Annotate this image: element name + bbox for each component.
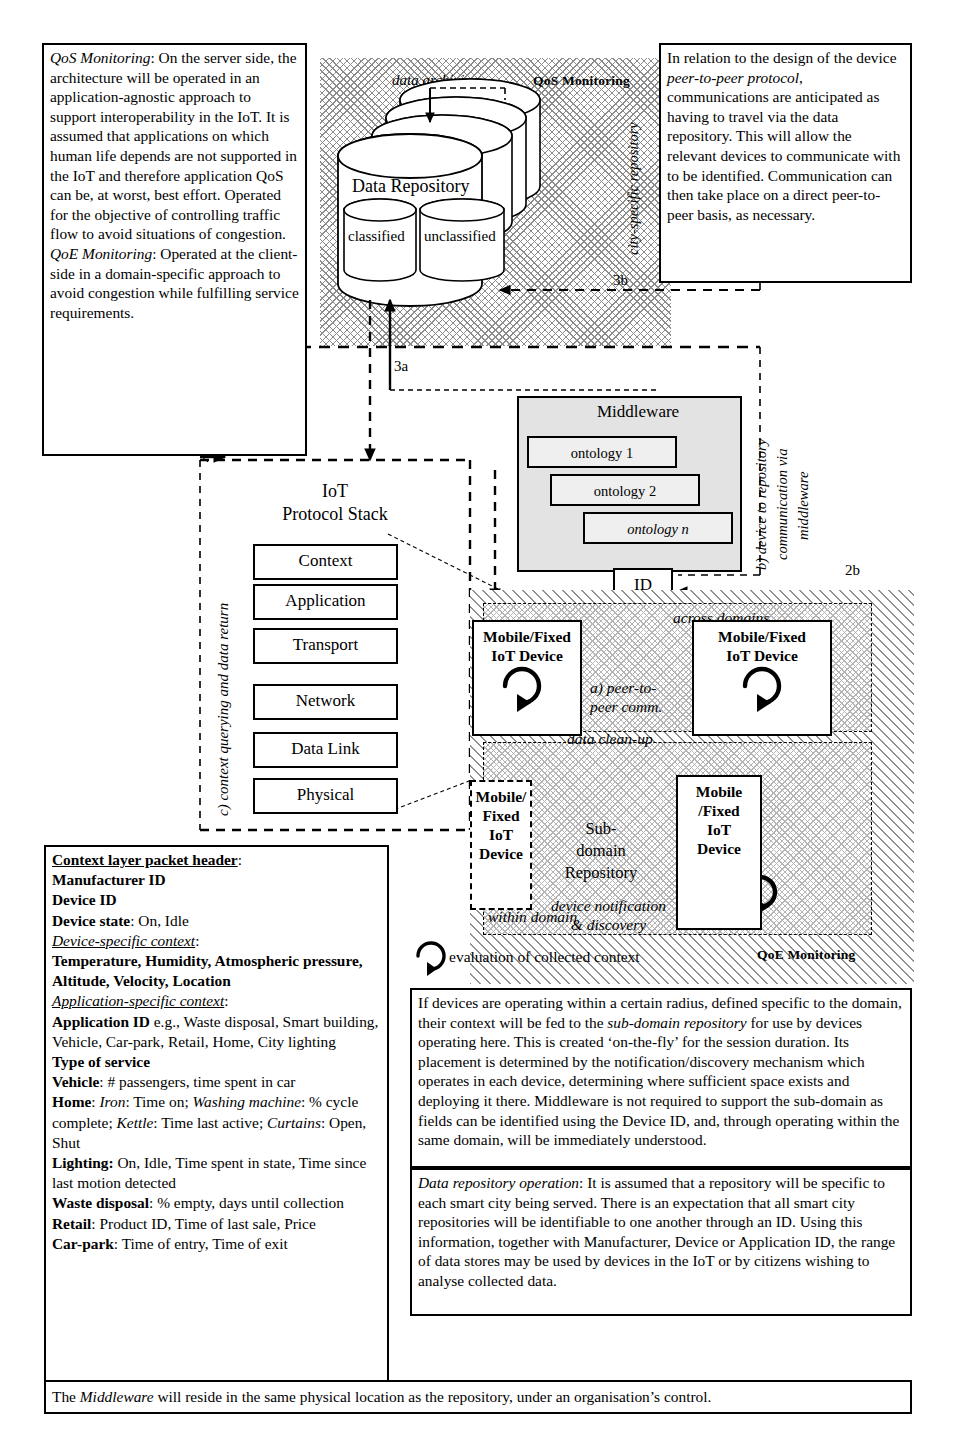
- device-state-label: Device state: [52, 912, 130, 929]
- stack-layer-physical[interactable]: Physical: [253, 778, 398, 814]
- peer-to-peer-comm-label: a) peer-to- peer comm.: [590, 678, 662, 716]
- device-bl-line2: Fixed: [472, 806, 530, 825]
- home-label: Home: [52, 1093, 91, 1110]
- packet-header-box: Context layer packet header: Manufacture…: [44, 845, 389, 1385]
- application-id-label: Application ID: [52, 1013, 150, 1030]
- retail-value: : Product ID, Time of last sale, Price: [91, 1215, 315, 1232]
- device-bottom-right: Mobile /Fixed IoT Device: [676, 775, 762, 930]
- stack-layer-application[interactable]: Application: [253, 584, 398, 620]
- packet-header-title: Context layer packet header: [52, 851, 238, 868]
- home-kettle-value: : Time last active;: [153, 1114, 267, 1131]
- footer-part2: will reside in the same physical locatio…: [154, 1388, 712, 1405]
- p2p-line1: a) peer-to-: [590, 678, 662, 697]
- device-bottom-left: Mobile/ Fixed IoT Device: [470, 780, 532, 910]
- device-specific-fields: Temperature, Humidity, Atmospheric press…: [52, 952, 363, 989]
- stack-layer-context[interactable]: Context: [253, 544, 398, 580]
- home-curtains-label: Curtains: [267, 1114, 321, 1131]
- context-querying-label: c) context querying and data return: [215, 603, 232, 816]
- stack-layer-physical-label: Physical: [297, 785, 355, 804]
- app-specific-context-title: Application-specific context: [52, 992, 224, 1009]
- footer-part1: The: [52, 1388, 80, 1405]
- retail-label: Retail: [52, 1215, 91, 1232]
- device-id-label: Device ID: [52, 891, 117, 908]
- stack-layer-transport[interactable]: Transport: [253, 628, 398, 664]
- vehicle-label: Vehicle: [52, 1073, 99, 1090]
- device-br-line4: Device: [678, 839, 760, 858]
- sub-domain-line2: Repository: [562, 862, 640, 884]
- note-subdomain-em: sub-domain repository: [607, 1014, 746, 1031]
- stack-title-line1: IoT: [240, 480, 430, 503]
- device-bl-line3: IoT: [472, 825, 530, 844]
- stack-title-line2: Protocol Stack: [240, 503, 430, 526]
- p2p-line2: peer comm.: [590, 697, 662, 716]
- device-state-value: : On, Idle: [130, 912, 189, 929]
- device-notification-label: device notification & discovery: [551, 896, 666, 934]
- data-cleanup-label: data clean-up: [567, 730, 653, 747]
- home-iron-label: Iron: [99, 1093, 125, 1110]
- stack-layer-transport-label: Transport: [293, 635, 359, 654]
- stack-layer-network-label: Network: [296, 691, 355, 710]
- note-sub-domain: If devices are operating within a certai…: [410, 988, 912, 1168]
- device-bl-line4: Device: [472, 844, 530, 863]
- stack-title: IoT Protocol Stack: [240, 480, 430, 526]
- device-bl-line1: Mobile/: [472, 787, 530, 806]
- figure-canvas: QoS Monitoring data archiving city-speci…: [0, 0, 958, 1431]
- carpark-value: : Time of entry, Time of exit: [114, 1235, 288, 1252]
- stack-layer-datalink-label: Data Link: [291, 739, 359, 758]
- device-br-line3: IoT: [678, 820, 760, 839]
- note-repo-body: : It is assumed that a repository will b…: [418, 1174, 895, 1289]
- sub-domain-repository-label: Sub-domain Repository: [562, 818, 640, 884]
- stack-layer-network[interactable]: Network: [253, 684, 398, 720]
- carpark-label: Car-park: [52, 1235, 114, 1252]
- note-footer: The Middleware will reside in the same p…: [44, 1380, 912, 1414]
- notification-line2: & discovery: [551, 915, 666, 934]
- device-br-line2: /Fixed: [678, 801, 760, 820]
- notification-line1: device notification: [551, 896, 666, 915]
- packet-header-colon: :: [238, 851, 242, 868]
- note-subdomain-part2: for use by devices operating here. This …: [418, 1014, 899, 1149]
- device-br-line1: Mobile: [678, 782, 760, 801]
- home-iron-value: : Time on;: [125, 1093, 192, 1110]
- footer-em: Middleware: [80, 1388, 154, 1405]
- waste-disposal-label: Waste disposal: [52, 1194, 149, 1211]
- manufacturer-id-label: Manufacturer ID: [52, 871, 166, 888]
- stack-layer-datalink[interactable]: Data Link: [253, 732, 398, 768]
- type-of-service-label: Type of service: [52, 1053, 150, 1070]
- note-repo-operation: Data repository operation: It is assumed…: [410, 1168, 912, 1316]
- note-repo-em: Data repository operation: [418, 1174, 579, 1191]
- stack-layer-context-label: Context: [299, 551, 353, 570]
- vehicle-value: : # passengers, time spent in car: [99, 1073, 295, 1090]
- context-querying-text: c) context querying and data return: [215, 603, 231, 816]
- home-kettle-label: Kettle: [117, 1114, 154, 1131]
- device-specific-context-title: Device-specific context: [52, 932, 195, 949]
- waste-disposal-value: : % empty, days until collection: [149, 1194, 344, 1211]
- stack-layer-application-label: Application: [285, 591, 365, 610]
- sub-domain-line1: Sub-domain: [562, 818, 640, 862]
- lighting-label: Lighting:: [52, 1154, 114, 1171]
- home-washing-label: Washing machine: [193, 1093, 301, 1110]
